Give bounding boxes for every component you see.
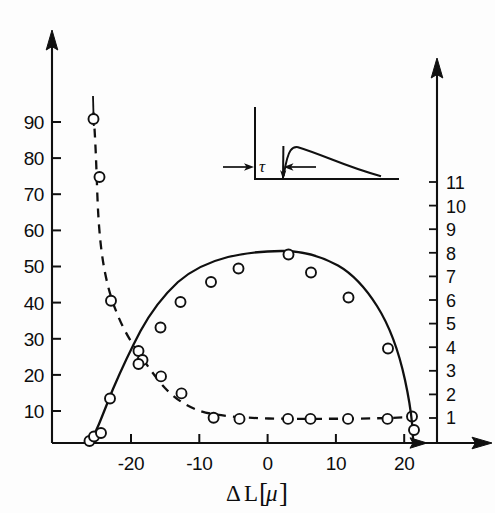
data-point [344,293,354,303]
data-point [283,414,293,424]
ticklabel-left-80: 80 [24,148,44,169]
data-point [134,359,144,369]
x-axis-title-mu: μ [265,481,278,506]
data-point [156,371,166,381]
ticklabel-left-90: 90 [24,112,44,133]
left-y-axis: 10 20 30 40 50 60 70 80 90 [24,30,61,443]
ticklabel-left-30: 30 [24,329,44,350]
ticklabel-x-20: 20 [394,453,414,474]
ticklabel-left-20: 20 [24,365,44,386]
ticklabel-x-minus10: -10 [186,453,212,474]
data-point [306,268,316,278]
x-axis-title: Δ L [ μ ] [226,478,288,508]
left-axis-arrowhead [46,30,58,50]
ticklabel-left-60: 60 [24,220,44,241]
x-axis-title-delta: Δ [226,481,241,506]
data-point [177,388,187,398]
ticklabel-right-9: 9 [446,220,456,240]
data-point [106,296,116,306]
data-point [156,323,166,333]
inset-pulse-diagram: τ [223,107,399,180]
ticklabel-left-70: 70 [24,184,44,205]
data-point [234,264,244,274]
ticklabel-right-6: 6 [446,291,456,311]
ticklabel-x-0: 0 [263,453,273,474]
data-point [209,413,219,423]
x-axis-arrowhead [472,437,492,449]
ticklabel-right-8: 8 [446,244,456,264]
ticklabel-right-7: 7 [446,267,456,287]
inset-pulse-waveform [284,147,381,176]
tau-label: τ [259,157,266,176]
ticklabel-x-10: 10 [326,453,346,474]
right-axis-arrowhead [431,58,443,78]
x-axis-tick-labels: -20 -10 0 10 20 [118,453,415,474]
figure-panel: 10 20 30 40 50 60 70 80 90 [0,0,495,513]
data-point [306,414,316,424]
data-point [235,414,245,424]
left-axis-ticks [52,122,61,411]
data-point [343,414,353,424]
right-axis-tick-labels: 1 2 3 4 5 6 7 8 9 10 11 [446,173,466,428]
data-point [105,394,115,404]
data-point [409,425,419,435]
ticklabel-right-2: 2 [446,385,456,405]
ticklabel-right-3: 3 [446,361,456,381]
x-axis-title-bracket-close: ] [279,478,288,508]
x-axis: -20 -10 0 10 20 Δ L [ μ ] [52,434,492,508]
chart-svg: 10 20 30 40 50 60 70 80 90 [0,0,495,513]
x-axis-title-l: L [244,481,258,506]
right-axis-ticks [429,182,437,418]
right-y-axis: 1 2 3 4 5 6 7 8 9 10 11 [429,58,466,443]
ticklabel-right-10: 10 [446,197,466,217]
data-point [96,428,106,438]
data-point [176,297,186,307]
dashed-curve-markers [89,114,418,424]
data-point [89,114,99,124]
ticklabel-right-5: 5 [446,314,456,334]
ticklabel-left-10: 10 [24,401,44,422]
left-axis-tick-labels: 10 20 30 40 50 60 70 80 90 [24,112,44,422]
dashed-curve-path [94,113,412,419]
ticklabel-right-4: 4 [446,338,456,358]
ticklabel-left-50: 50 [24,256,44,277]
ticklabel-right-1: 1 [446,408,456,428]
ticklabel-left-40: 40 [24,293,44,314]
data-point [95,172,105,182]
x-axis-ticks [131,434,404,443]
data-point [383,344,393,354]
data-point [206,277,216,287]
ticklabel-x-minus20: -20 [118,453,144,474]
ticklabel-right-11: 11 [446,173,465,193]
data-point [284,250,294,260]
data-point [383,414,393,424]
dashed-curve-series [89,96,418,424]
